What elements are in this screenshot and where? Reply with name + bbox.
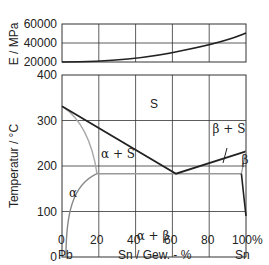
- phase-panel: S α + S α α + β β + S β 400 300 200 100 …: [7, 68, 249, 264]
- pb-sn-phase-diagram: 60000 40000 20000 E / MPa S α + S α: [0, 0, 269, 265]
- lower-ylabel: Temperatur / °C: [7, 124, 21, 208]
- phase-label-beta: β: [242, 153, 249, 167]
- solvus-beta: [241, 174, 246, 216]
- ytick-100: 100: [37, 205, 57, 219]
- upper-ylabel: E / MPa: [7, 22, 21, 65]
- liquidus: [62, 106, 246, 174]
- phase-label-beta-liquid: β + S: [213, 122, 246, 136]
- phase-label-liquid: S: [150, 97, 158, 111]
- ytick-300: 300: [37, 114, 57, 128]
- upper-ytick-20000: 20000: [24, 55, 58, 69]
- ytick-0: 0: [50, 250, 57, 264]
- modulus-panel: 60000 40000 20000 E / MPa: [7, 17, 246, 69]
- upper-ytick-60000: 60000: [24, 17, 58, 31]
- phase-label-alpha-liquid: α + S: [101, 147, 135, 161]
- upper-ytick-40000: 40000: [24, 36, 58, 50]
- ytick-200: 200: [37, 159, 57, 173]
- beta-s-leader: [223, 148, 227, 163]
- phase-label-alpha: α: [69, 186, 77, 200]
- modulus-curve: [62, 33, 246, 62]
- phase-label-alpha-beta: α + β: [137, 229, 170, 243]
- ytick-400: 400: [37, 68, 57, 82]
